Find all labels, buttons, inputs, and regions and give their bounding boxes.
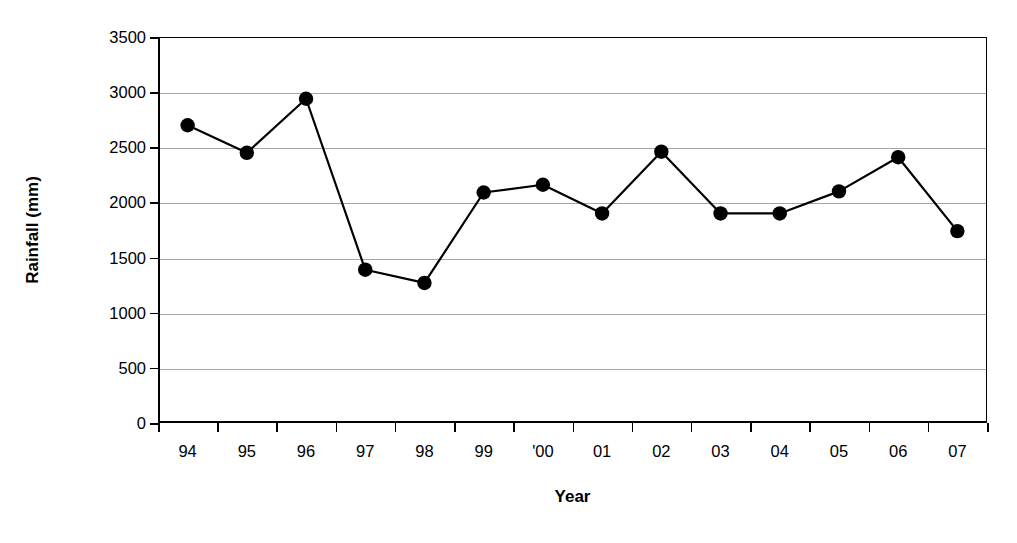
y-tick-label: 0 <box>60 415 146 432</box>
y-tick-label: 3500 <box>60 29 146 46</box>
gridline <box>160 314 986 315</box>
x-tick-mark <box>987 423 989 432</box>
x-tick-label: 98 <box>415 443 433 460</box>
plot-area <box>158 37 987 423</box>
x-tick-mark <box>276 423 278 432</box>
x-tick-mark <box>395 423 397 432</box>
y-tick-label: 3000 <box>60 84 146 101</box>
gridline <box>160 369 986 370</box>
x-tick-mark <box>691 423 693 432</box>
y-tick-label: 1500 <box>60 249 146 266</box>
x-tick-label: 97 <box>356 443 374 460</box>
x-tick-mark <box>454 423 456 432</box>
x-tick-label: 04 <box>771 443 789 460</box>
x-tick-label: 01 <box>593 443 611 460</box>
x-tick-mark <box>928 423 930 432</box>
x-tick-mark <box>869 423 871 432</box>
x-tick-mark <box>809 423 811 432</box>
gridline <box>160 203 986 204</box>
gridline <box>160 259 986 260</box>
x-tick-label: 03 <box>711 443 729 460</box>
y-tick-label: 500 <box>60 360 146 377</box>
x-tick-mark <box>158 423 160 432</box>
x-tick-label: 07 <box>948 443 966 460</box>
x-tick-label: 95 <box>238 443 256 460</box>
y-tick-label: 1000 <box>60 304 146 321</box>
y-axis-title: Rainfall (mm) <box>20 37 46 423</box>
x-tick-label: 02 <box>652 443 670 460</box>
x-tick-label: 06 <box>889 443 907 460</box>
gridline <box>160 148 986 149</box>
x-tick-mark <box>573 423 575 432</box>
x-tick-label: 99 <box>474 443 492 460</box>
x-tick-mark <box>750 423 752 432</box>
x-tick-mark <box>217 423 219 432</box>
y-tick-label: 2500 <box>60 139 146 156</box>
x-tick-mark <box>513 423 515 432</box>
x-axis-title: Year <box>158 487 987 507</box>
x-tick-mark <box>632 423 634 432</box>
x-tick-label: '00 <box>532 443 554 460</box>
x-tick-mark <box>336 423 338 432</box>
x-tick-label: 05 <box>830 443 848 460</box>
x-tick-label: 96 <box>297 443 315 460</box>
rainfall-line-chart: Rainfall (mm) 05001000150020002500300035… <box>0 0 1017 543</box>
y-tick-label: 2000 <box>60 194 146 211</box>
x-tick-label: 94 <box>178 443 196 460</box>
y-axis-tick-labels: 0500100015002000250030003500 <box>60 0 146 543</box>
gridline <box>160 93 986 94</box>
